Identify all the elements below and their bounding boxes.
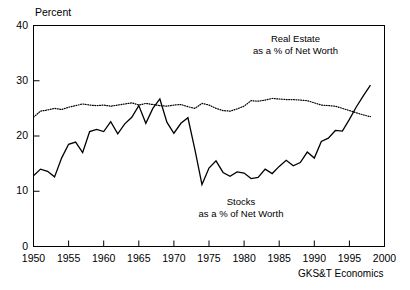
x-tick-label: 1990: [294, 252, 334, 264]
y-ticks-group: [34, 26, 40, 247]
series-line-stocks: [34, 85, 371, 184]
y-tick-label: 10: [0, 184, 28, 196]
chart-root: Percent 010203040 1950195519601965197019…: [0, 0, 410, 290]
annotation-real-estate-line1: Real Estate: [243, 33, 348, 45]
x-tick-label: 1995: [329, 252, 369, 264]
y-tick-label: 30: [0, 74, 28, 86]
annotation-stocks: Stocks as a % of Net Worth: [177, 196, 305, 219]
x-tick-label: 1970: [154, 252, 194, 264]
x-tick-label: 2000: [365, 252, 405, 264]
series-line-real-estate: [34, 98, 371, 117]
x-ticks-group: [34, 241, 385, 247]
series-group: [34, 85, 371, 184]
x-tick-label: 1965: [119, 252, 159, 264]
x-tick-label: 1975: [189, 252, 229, 264]
plot-svg: [0, 0, 410, 290]
credit-label: GKS&T Economics: [298, 268, 383, 279]
annotation-real-estate: Real Estate as a % of Net Worth: [243, 33, 348, 56]
x-tick-label: 1950: [14, 252, 54, 264]
annotation-real-estate-line2: as a % of Net Worth: [243, 45, 348, 57]
y-tick-label: 40: [0, 19, 28, 31]
y-tick-label: 20: [0, 129, 28, 141]
annotation-stocks-line1: Stocks: [177, 196, 305, 208]
y-tick-label: 0: [0, 240, 28, 252]
annotation-stocks-line2: as a % of Net Worth: [177, 208, 305, 220]
x-tick-label: 1955: [49, 252, 89, 264]
x-tick-label: 1960: [84, 252, 124, 264]
x-tick-label: 1980: [224, 252, 264, 264]
x-tick-label: 1985: [259, 252, 299, 264]
